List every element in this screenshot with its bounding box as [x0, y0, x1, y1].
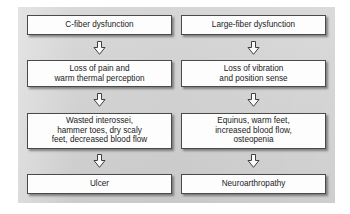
- c-fiber-column: C-fiber dysfunction Loss of pain and war…: [27, 15, 172, 194]
- node-label: C-fiber dysfunction: [65, 20, 133, 30]
- flowchart-diagram: C-fiber dysfunction Loss of pain and war…: [0, 0, 350, 214]
- down-block-arrow-icon: [247, 41, 260, 55]
- node-loss-of-pain: Loss of pain and warm thermal perception: [27, 60, 172, 87]
- node-loss-of-vibration: Loss of vibration and position sense: [181, 60, 326, 87]
- down-block-arrow-icon: [247, 93, 260, 107]
- node-c-fiber-dysfunction: C-fiber dysfunction: [27, 15, 172, 35]
- node-equinus: Equinus, warm feet, increased blood flow…: [181, 113, 326, 149]
- down-block-arrow-icon: [93, 41, 106, 55]
- connector-c2: [27, 87, 172, 112]
- node-wasted-interossei: Wasted interossei, hammer toes, dry scal…: [27, 113, 172, 149]
- down-block-arrow-icon: [93, 154, 106, 168]
- node-label: Large-fiber dysfunction: [212, 20, 295, 30]
- connector-c1: [27, 35, 172, 60]
- large-fiber-column: Large-fiber dysfunction Loss of vibratio…: [181, 15, 326, 194]
- connector-l2: [181, 87, 326, 112]
- connector-l3: [181, 149, 326, 174]
- down-block-arrow-icon: [247, 154, 260, 168]
- node-label: Ulcer: [90, 179, 109, 189]
- connector-c3: [27, 149, 172, 174]
- node-neuroarthropathy: Neuroarthropathy: [181, 174, 326, 194]
- flowchart-columns: C-fiber dysfunction Loss of pain and war…: [18, 7, 335, 203]
- node-large-fiber-dysfunction: Large-fiber dysfunction: [181, 15, 326, 35]
- node-label: Loss of vibration and position sense: [219, 64, 287, 83]
- node-label: Loss of pain and warm thermal perception: [54, 64, 144, 83]
- down-block-arrow-icon: [93, 93, 106, 107]
- connector-l1: [181, 35, 326, 60]
- node-ulcer: Ulcer: [27, 174, 172, 194]
- node-label: Equinus, warm feet, increased blood flow…: [215, 116, 291, 145]
- node-label: Wasted interossei, hammer toes, dry scal…: [52, 116, 148, 145]
- node-label: Neuroarthropathy: [222, 179, 286, 189]
